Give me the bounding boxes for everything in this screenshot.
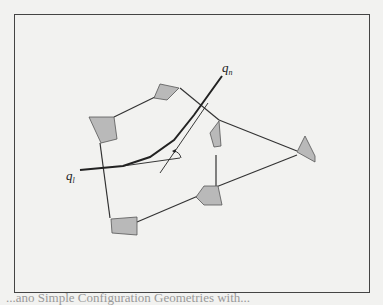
tangent-line [160,103,208,173]
obstacle-middle [210,121,221,147]
roadmap-diagram: qn ql [0,0,383,305]
reference-line [123,158,180,166]
obstacle-right [297,136,315,162]
label-q-n: qn [222,60,233,77]
label-q-l: ql [66,168,76,185]
obstacle-left [89,117,117,143]
obstacle-bottom-mid [196,186,222,205]
obstacle-top [154,84,179,100]
obstacle-bottom-left [111,217,137,235]
caption-fragment: ...ano Simple Configuration Geometries w… [6,290,250,305]
